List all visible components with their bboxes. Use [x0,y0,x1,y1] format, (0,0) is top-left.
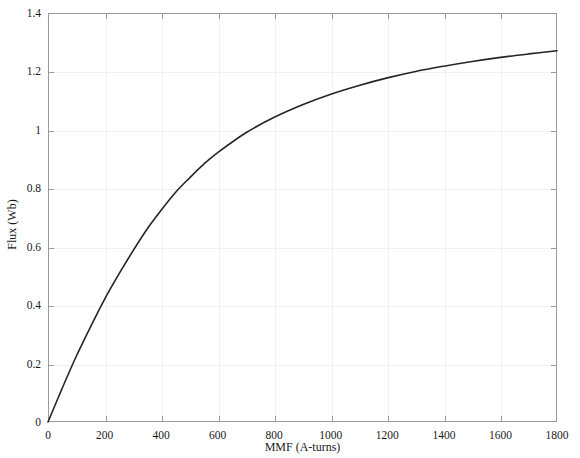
x-axis-tick-top [275,14,276,19]
y-axis-tick [49,248,54,249]
y-tick-label: 1.2 [0,65,41,77]
x-tick-label: 1000 [319,429,342,441]
y-axis-tick-right [551,248,556,249]
y-tick-label: 0 [0,416,41,428]
x-axis-tick-top [162,14,163,19]
x-tick-label: 600 [209,429,226,441]
grid-line-horizontal [49,306,556,307]
y-axis-tick [49,131,54,132]
x-tick-label: 1200 [376,429,399,441]
plot-area [48,13,557,422]
grid-line-horizontal [49,131,556,132]
grid-line-vertical [388,14,389,421]
x-axis-tick-top [106,14,107,19]
x-axis-tick [219,416,220,421]
grid-line-horizontal [49,72,556,73]
y-tick-label: 0.2 [0,358,41,370]
top-edge-artifact [0,0,580,9]
x-axis-tick-top [445,14,446,19]
y-axis-tick-right [551,365,556,366]
x-axis-tick [332,416,333,421]
x-axis-tick-top [219,14,220,19]
grid-line-horizontal [49,189,556,190]
y-axis-tick [49,365,54,366]
grid-line-horizontal [49,248,556,249]
y-axis-tick-right [551,72,556,73]
y-tick-label: 0.4 [0,299,41,311]
x-tick-label: 1600 [489,429,512,441]
y-axis-tick [49,306,54,307]
y-axis-tick-right [551,131,556,132]
x-tick-label: 800 [266,429,283,441]
x-tick-label: 200 [96,429,113,441]
grid-line-horizontal [49,365,556,366]
grid-line-vertical [445,14,446,421]
grid-line-vertical [162,14,163,421]
x-axis-tick-top [388,14,389,19]
grid-line-vertical [106,14,107,421]
y-tick-label: 1.4 [0,7,41,19]
x-tick-label: 0 [45,429,51,441]
y-axis-tick-right [551,306,556,307]
chart-figure: Flux (Wb) MMF (A-turns) 0200400600800100… [0,0,580,458]
grid-line-vertical [501,14,502,421]
grid-line-vertical [275,14,276,421]
x-axis-label: MMF (A-turns) [48,440,557,455]
x-axis-tick-top [332,14,333,19]
x-axis-tick [275,416,276,421]
x-axis-tick [162,416,163,421]
x-axis-tick [445,416,446,421]
y-tick-label: 0.6 [0,241,41,253]
grid-line-vertical [332,14,333,421]
y-axis-tick [49,189,54,190]
x-tick-label: 1400 [432,429,455,441]
y-axis-tick [49,72,54,73]
x-tick-label: 400 [152,429,169,441]
x-axis-tick [388,416,389,421]
grid-line-vertical [219,14,220,421]
x-axis-tick-top [501,14,502,19]
y-axis-tick-right [551,189,556,190]
x-axis-tick [501,416,502,421]
x-axis-tick [106,416,107,421]
y-tick-label: 1 [0,124,41,136]
x-tick-label: 1800 [546,429,569,441]
y-tick-label: 0.8 [0,182,41,194]
